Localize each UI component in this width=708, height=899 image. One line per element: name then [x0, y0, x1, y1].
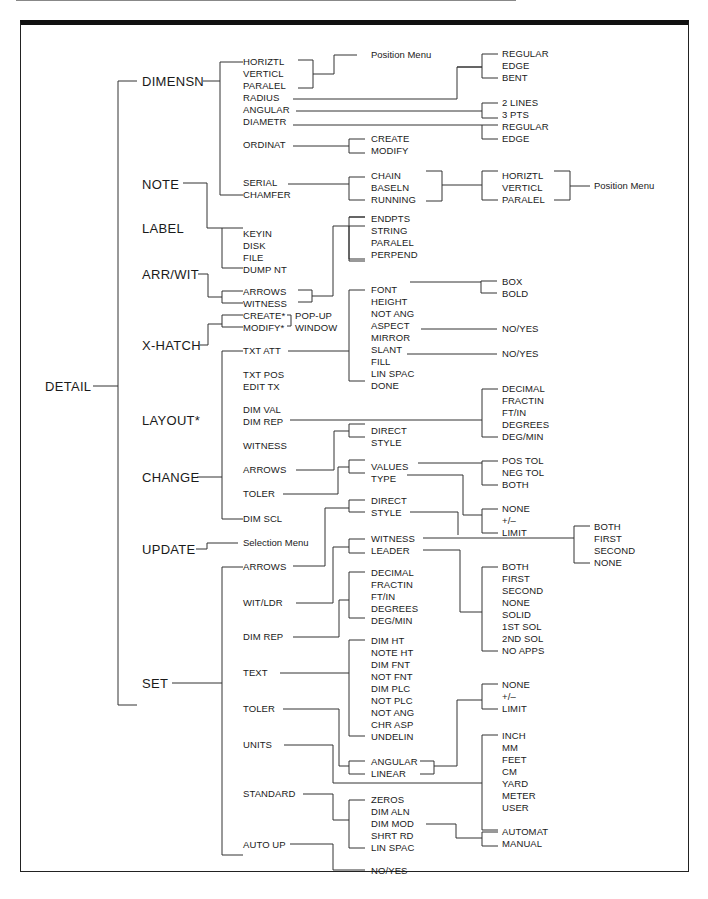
set-units: UNITS: [243, 740, 272, 750]
text-dimht: DIM HT: [371, 636, 404, 646]
serial-running: RUNNING: [371, 195, 416, 205]
change-dimrep-decimal: DECIMAL: [502, 384, 545, 394]
change-dimrep-degrees: DEGREES: [502, 420, 549, 430]
change-dimrep: DIM REP: [243, 417, 283, 427]
connector-lines: [0, 0, 708, 899]
text-notplc: NOT PLC: [371, 696, 413, 706]
values-negtol: NEG TOL: [502, 468, 544, 478]
window-label: WINDOW: [295, 323, 337, 333]
change-arrows-direct: DIRECT: [371, 426, 407, 436]
dimensn-serial: SERIAL: [243, 178, 277, 188]
txtatt-font: FONT: [371, 285, 397, 295]
ordinat-create: CREATE: [371, 134, 409, 144]
leader-none: NONE: [502, 598, 530, 608]
label-file: FILE: [243, 253, 263, 263]
arrwit-witness: WITNESS: [243, 299, 287, 309]
standard-dimaln: DIM ALN: [371, 807, 410, 817]
arrwit-string: STRING: [371, 226, 408, 236]
set-text: TEXT: [243, 668, 268, 678]
change-toler-values: VALUES: [371, 462, 408, 472]
dimensn-chamfer: CHAMFER: [243, 190, 291, 200]
standard-shrtrd: SHRT RD: [371, 831, 414, 841]
set-arrows-direct: DIRECT: [371, 496, 407, 506]
text-dimfnt: DIM FNT: [371, 660, 410, 670]
witness-second: SECOND: [594, 546, 635, 556]
popup-label: POP-UP: [295, 311, 332, 321]
node-detail: DETAIL: [45, 380, 91, 393]
serial-paralel: PARALEL: [502, 195, 545, 205]
node-change: CHANGE: [142, 471, 199, 484]
set-dimrep-degmin: DEG/MIN: [371, 616, 412, 626]
radius-regular: REGULAR: [502, 49, 549, 59]
position-menu-1: Position Menu: [371, 50, 431, 60]
change-arrows: ARROWS: [243, 465, 286, 475]
font-box: BOX: [502, 277, 522, 287]
txtatt-mirror: MIRROR: [371, 333, 410, 343]
units-cm: CM: [502, 767, 517, 777]
text-chrasp: CHR ASP: [371, 720, 413, 730]
leader-solid: SOLID: [502, 610, 531, 620]
set-arrows: ARROWS: [243, 562, 286, 572]
type-none: NONE: [502, 504, 530, 514]
dimmod-manual: MANUAL: [502, 839, 542, 849]
txtatt-done: DONE: [371, 381, 399, 391]
set-standard: STANDARD: [243, 789, 295, 799]
units-inch: INCH: [502, 731, 526, 741]
fill-noyes: NO/YES: [502, 349, 539, 359]
dimensn-verticl: VERTICL: [243, 69, 284, 79]
dimensn-diametr: DIAMETR: [243, 117, 286, 127]
diametr-regular: REGULAR: [502, 122, 549, 132]
angular-2lines: 2 LINES: [502, 98, 538, 108]
change-txtatt: TXT ATT: [243, 346, 281, 356]
dimensn-radius: RADIUS: [243, 93, 280, 103]
leader-2ndsol: 2ND SOL: [502, 634, 543, 644]
autoup-noyes: NO/YES: [371, 866, 408, 876]
units-feet: FEET: [502, 755, 527, 765]
values-postol: POS TOL: [502, 456, 544, 466]
dimensn-angular: ANGULAR: [243, 105, 290, 115]
units-yard: YARD: [502, 779, 528, 789]
txtatt-fill: FILL: [371, 357, 390, 367]
node-set: SET: [142, 677, 168, 690]
set-dimrep: DIM REP: [243, 632, 283, 642]
arrwit-paralel: PARALEL: [371, 238, 414, 248]
change-dimscl: DIM SCL: [243, 514, 282, 524]
set-dimrep-fractin: FRACTIN: [371, 580, 413, 590]
text-noteht: NOTE HT: [371, 648, 413, 658]
txtatt-aspect: ASPECT: [371, 321, 410, 331]
txtatt-height: HEIGHT: [371, 297, 408, 307]
mirror-noyes: NO/YES: [502, 324, 539, 334]
serial-horiztl: HORIZTL: [502, 171, 543, 181]
arrwit-endpts: ENDPTS: [371, 214, 410, 224]
node-label: LABEL: [142, 222, 184, 235]
ordinat-modify: MODIFY: [371, 146, 409, 156]
serial-verticl: VERTICL: [502, 183, 543, 193]
leader-both: BOTH: [502, 562, 529, 572]
change-dimval: DIM VAL: [243, 405, 281, 415]
radius-edge: EDGE: [502, 61, 529, 71]
leader-1stsol: 1ST SOL: [502, 622, 542, 632]
node-arrwit: ARR/WIT: [142, 268, 199, 281]
witness-both: BOTH: [594, 522, 621, 532]
values-both: BOTH: [502, 480, 529, 490]
set-witldr-leader: LEADER: [371, 546, 410, 556]
units-linear: LINEAR: [371, 769, 406, 779]
change-dimrep-fractin: FRACTIN: [502, 396, 544, 406]
set-toler-plusminus: +/–: [502, 692, 516, 702]
serial-chain: CHAIN: [371, 171, 401, 181]
standard-zeros: ZEROS: [371, 795, 404, 805]
txtatt-slant: SLANT: [371, 345, 402, 355]
dimensn-paralel: PARALEL: [243, 81, 286, 91]
standard-linspac: LIN SPAC: [371, 843, 414, 853]
set-toler-limit: LIMIT: [502, 704, 527, 714]
xhatch-modify: MODIFY*: [243, 323, 284, 333]
txtatt-linspac: LIN SPAC: [371, 369, 414, 379]
dimensn-ordinat: ORDINAT: [243, 140, 286, 150]
set-toler: TOLER: [243, 704, 275, 714]
text-notfnt: NOT FNT: [371, 672, 413, 682]
set-arrows-style: STYLE: [371, 508, 402, 518]
change-arrows-style: STYLE: [371, 438, 402, 448]
node-dimensn: DIMENSN: [142, 75, 204, 88]
leader-first: FIRST: [502, 574, 530, 584]
change-witness: WITNESS: [243, 441, 287, 451]
